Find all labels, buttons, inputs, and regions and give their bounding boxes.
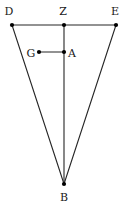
vertex-point-a — [62, 50, 66, 54]
vertex-label-d: D — [5, 6, 14, 17]
vertex-point-d — [10, 23, 14, 27]
vertex-label-g: G — [27, 48, 36, 59]
vertex-point-e — [114, 23, 118, 27]
vertex-label-a: A — [68, 48, 76, 59]
geometry-canvas — [0, 0, 126, 208]
vertex-label-e: E — [111, 6, 119, 17]
geometry-figure: DZEGAB — [0, 0, 126, 208]
segment-d-b — [12, 25, 64, 184]
vertex-label-b: B — [60, 192, 68, 203]
vertex-label-z: Z — [59, 6, 67, 17]
vertex-point-g — [37, 50, 41, 54]
vertex-point-z — [62, 23, 66, 27]
vertex-point-b — [62, 182, 66, 186]
